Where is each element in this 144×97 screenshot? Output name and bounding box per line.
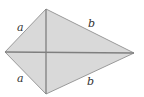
kite-diagram: a b a b [0,0,144,97]
label-bottom-right-side: b [87,75,94,88]
label-top-left-side: a [17,21,24,34]
label-top-right-side: b [88,17,95,30]
label-bottom-left-side: a [17,72,24,85]
